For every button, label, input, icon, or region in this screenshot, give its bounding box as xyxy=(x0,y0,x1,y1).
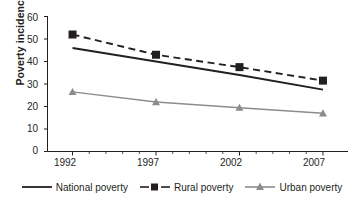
legend-item-national[interactable]: National poverty xyxy=(21,181,128,193)
legend-item-urban[interactable]: Urban poverty xyxy=(244,181,342,193)
chart-legend: National poverty Rural poverty Urban pov… xyxy=(0,181,363,193)
y-axis-ticks xyxy=(44,17,48,152)
dashed-square-key-icon xyxy=(139,181,171,193)
plot-area xyxy=(0,0,363,204)
data-series xyxy=(69,31,327,117)
legend-label-rural: Rural poverty xyxy=(174,182,233,193)
x-axis-ticks xyxy=(73,152,323,156)
series-line-rural-poverty xyxy=(73,35,323,81)
axis-lines xyxy=(48,16,349,152)
series-line-national-poverty xyxy=(73,48,323,90)
data-point-rural-poverty-2002 xyxy=(235,63,243,71)
legend-label-urban: Urban poverty xyxy=(279,182,342,193)
series-line-urban-poverty xyxy=(73,92,323,113)
gray-triangle-key-icon xyxy=(244,181,276,193)
data-point-rural-poverty-2007 xyxy=(319,77,327,85)
legend-item-rural[interactable]: Rural poverty xyxy=(139,181,233,193)
poverty-incidence-chart: Poverty incidence (%) 60 50 40 30 20 10 … xyxy=(0,0,363,204)
data-point-rural-poverty-1997 xyxy=(152,51,160,59)
legend-label-national: National poverty xyxy=(56,182,128,193)
data-point-rural-poverty-1992 xyxy=(69,31,77,39)
solid-line-key-icon xyxy=(21,181,53,193)
